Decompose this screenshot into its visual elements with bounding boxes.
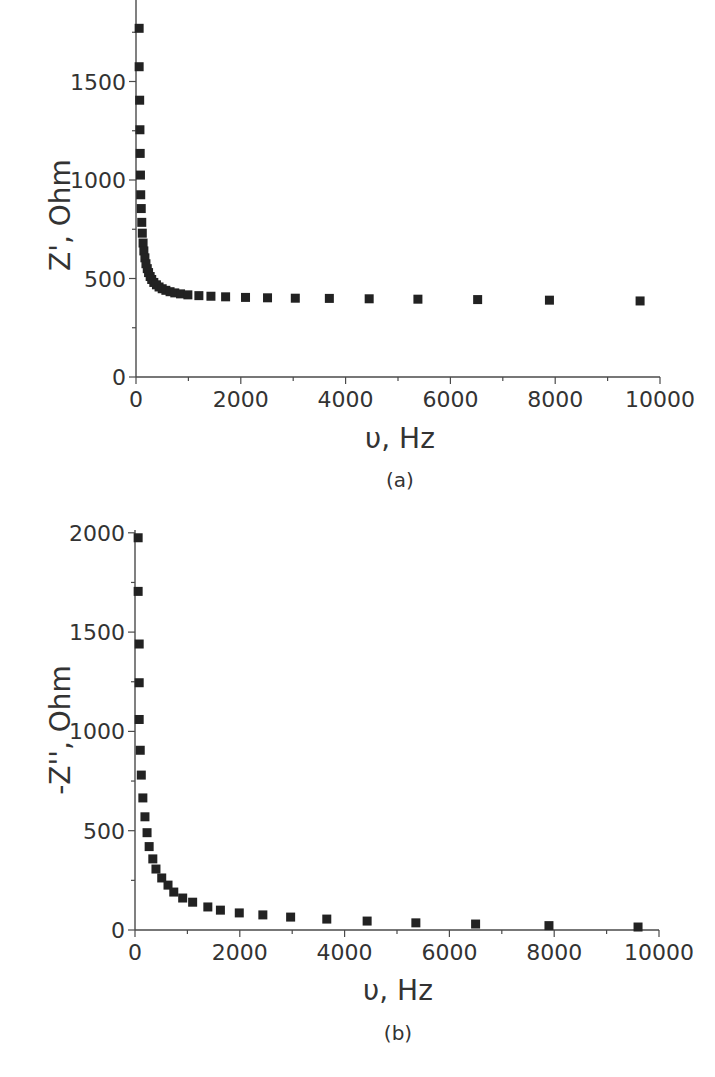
data-point: [136, 746, 145, 755]
data-point: [235, 908, 244, 917]
x-tick-label: 2000: [213, 387, 269, 412]
data-point: [473, 295, 482, 304]
x-tick-label: 4000: [317, 940, 373, 965]
data-point: [322, 915, 331, 924]
data-point: [151, 865, 160, 874]
y-axis-label-a: Z', Ohm: [44, 159, 77, 271]
x-tick-label: 4000: [318, 387, 374, 412]
data-point: [135, 96, 144, 105]
data-point: [137, 204, 146, 213]
data-point: [145, 842, 154, 851]
caption-a: (a): [386, 468, 414, 492]
y-tick-label: 2000: [69, 521, 125, 546]
data-point: [135, 640, 144, 649]
y-tick-label: 1000: [69, 719, 125, 744]
data-point: [411, 918, 420, 927]
data-point: [221, 292, 230, 301]
y-tick-label: 0: [111, 918, 125, 943]
data-point: [178, 894, 187, 903]
y-tick-label: 500: [84, 267, 126, 292]
data-point: [363, 917, 372, 926]
chart-panel-b: 02000400060008000100000500100015002000 -…: [44, 521, 694, 1045]
data-point: [291, 294, 300, 303]
data-point: [135, 62, 144, 71]
y-tick-label: 1500: [69, 620, 125, 645]
data-point: [136, 171, 145, 180]
y-axis-label-b: -Z'', Ohm: [44, 665, 77, 795]
data-point: [636, 296, 645, 305]
axes-b: 02000400060008000100000500100015002000: [69, 521, 694, 965]
data-point: [135, 24, 144, 33]
data-point: [134, 587, 143, 596]
data-series-b: [134, 533, 643, 931]
x-tick-label: 2000: [212, 940, 268, 965]
y-tick-label: 1500: [70, 70, 126, 95]
figure: 0200040006000800010000050010001500 Z', O…: [0, 0, 715, 1077]
axes-a: 0200040006000800010000050010001500: [70, 0, 695, 412]
data-point: [136, 149, 145, 158]
data-point: [135, 678, 144, 687]
x-tick-label: 10000: [625, 387, 695, 412]
data-series-a: [135, 24, 645, 306]
data-point: [138, 229, 147, 238]
data-point: [241, 293, 250, 302]
x-tick-label: 10000: [624, 940, 694, 965]
data-point: [258, 910, 267, 919]
data-point: [188, 898, 197, 907]
y-tick-label: 0: [112, 365, 126, 390]
data-point: [137, 771, 146, 780]
data-point: [413, 295, 422, 304]
data-point: [545, 296, 554, 305]
data-point: [325, 294, 334, 303]
caption-b: (b): [384, 1021, 412, 1045]
data-point: [203, 902, 212, 911]
data-point: [148, 854, 157, 863]
data-point: [169, 888, 178, 897]
data-point: [140, 812, 149, 821]
data-point: [134, 533, 143, 542]
chart-panel-a: 0200040006000800010000050010001500 Z', O…: [44, 0, 695, 492]
data-point: [286, 913, 295, 922]
data-point: [135, 715, 144, 724]
data-point: [143, 828, 152, 837]
data-point: [135, 125, 144, 134]
x-tick-label: 6000: [422, 387, 478, 412]
x-axis-label-b: υ, Hz: [363, 974, 433, 1007]
data-point: [634, 923, 643, 932]
data-point: [206, 292, 215, 301]
data-point: [263, 293, 272, 302]
data-point: [139, 239, 148, 248]
data-point: [136, 190, 145, 199]
data-point: [138, 793, 147, 802]
data-point: [471, 920, 480, 929]
data-point: [544, 921, 553, 930]
x-tick-label: 8000: [526, 940, 582, 965]
x-axis-label-a: υ, Hz: [365, 422, 435, 455]
data-point: [137, 218, 146, 227]
data-point: [194, 291, 203, 300]
data-point: [365, 294, 374, 303]
data-point: [216, 906, 225, 915]
y-tick-label: 500: [83, 819, 125, 844]
data-point: [183, 290, 192, 299]
y-tick-label: 1000: [70, 168, 126, 193]
x-tick-label: 8000: [527, 387, 583, 412]
x-tick-label: 6000: [421, 940, 477, 965]
x-tick-label: 0: [129, 387, 143, 412]
x-tick-label: 0: [128, 940, 142, 965]
